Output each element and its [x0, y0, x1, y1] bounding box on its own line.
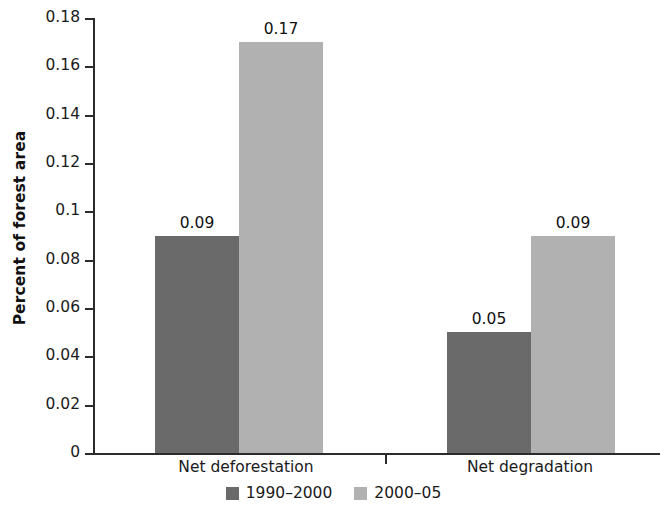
bar-net-degradation-2000-05 [531, 236, 615, 454]
y-tick-mark [85, 115, 93, 117]
y-tick-mark [85, 405, 93, 407]
y-tick-label-0.14: 0.14 [45, 107, 80, 123]
bar-chart: Percent of forest area 0.18 0.16 0.14 0.… [0, 0, 667, 510]
x-axis-category-label-net-degradation: Net degradation [467, 458, 593, 476]
y-tick-mark [85, 211, 93, 213]
y-tick-label-0.18: 0.18 [45, 10, 80, 26]
bar-value-label-net-degradation-1990-2000: 0.05 [472, 312, 507, 328]
bar-net-deforestation-1990-2000 [155, 236, 239, 454]
y-tick-mark [85, 260, 93, 262]
plot-area: 0.09 0.17 0.05 0.09 [93, 18, 660, 453]
y-tick-mark [85, 308, 93, 310]
y-tick-label-0.1: 0.1 [55, 204, 80, 220]
x-axis-category-label-net-deforestation: Net deforestation [178, 458, 313, 476]
y-tick-mark [85, 453, 93, 455]
y-tick-mark [85, 356, 93, 358]
legend-label-1990-2000: 1990–2000 [246, 486, 333, 502]
y-tick-mark [85, 18, 93, 20]
y-tick-mark [85, 66, 93, 68]
legend-label-2000-05: 2000–05 [374, 486, 441, 502]
y-tick-label-0.02: 0.02 [45, 397, 80, 413]
bar-value-label-net-degradation-2000-05: 0.09 [556, 216, 591, 232]
bar-net-deforestation-2000-05 [239, 42, 323, 453]
y-tick-label-0.16: 0.16 [45, 59, 80, 75]
legend: 1990–2000 2000–05 [0, 486, 667, 502]
legend-swatch-icon-2000-05 [354, 487, 367, 500]
bar-net-degradation-1990-2000 [447, 332, 531, 453]
legend-item-2000-05: 2000–05 [354, 486, 441, 502]
y-tick-label-0: 0 [70, 445, 80, 461]
y-tick-mark [85, 163, 93, 165]
y-tick-label-0.12: 0.12 [45, 155, 80, 171]
y-tick-label-0.08: 0.08 [45, 252, 80, 268]
y-tick-label-0.06: 0.06 [45, 300, 80, 316]
x-axis-separator-tick [385, 455, 387, 464]
y-axis-ticks: 0.18 0.16 0.14 0.12 0.1 0.08 0.06 0.04 0… [0, 18, 93, 453]
bar-value-label-net-deforestation-1990-2000: 0.09 [180, 216, 215, 232]
legend-item-1990-2000: 1990–2000 [226, 486, 333, 502]
bar-value-label-net-deforestation-2000-05: 0.17 [264, 22, 299, 38]
x-axis-line [93, 453, 660, 455]
legend-swatch-icon-1990-2000 [226, 487, 239, 500]
y-tick-label-0.04: 0.04 [45, 349, 80, 365]
